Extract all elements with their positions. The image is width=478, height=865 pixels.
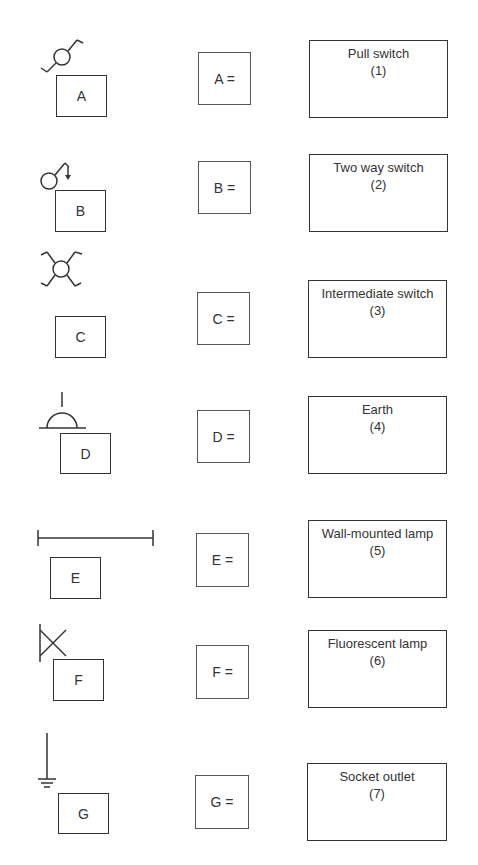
answer-label: A = <box>214 71 235 87</box>
component-number: (2) <box>310 176 447 193</box>
symbol-letter: F <box>74 672 83 688</box>
component-name: Wall-mounted lamp <box>309 525 446 542</box>
fluorescent-lamp-icon <box>38 530 153 546</box>
component-number: (1) <box>310 62 447 79</box>
symbol-a-label-box: A <box>56 75 107 117</box>
wall-mounted-lamp-icon <box>40 624 66 662</box>
component-name: Fluorescent lamp <box>309 635 446 652</box>
symbol-letter: E <box>71 570 80 586</box>
symbol-e-label-box: E <box>50 557 101 599</box>
symbol-g-label-box: G <box>58 793 109 834</box>
component-number: (6) <box>309 652 446 669</box>
component-name: Earth <box>309 401 446 418</box>
answer-label: F = <box>212 664 233 680</box>
symbol-b-label-box: B <box>55 190 106 232</box>
two-way-switch-icon <box>41 163 71 189</box>
symbol-letter: A <box>77 88 86 104</box>
name-box-6: Fluorescent lamp (6) <box>308 630 447 708</box>
earth-icon <box>38 733 56 787</box>
symbol-letter: B <box>76 203 85 219</box>
socket-outlet-icon <box>39 392 86 428</box>
name-box-4: Earth (4) <box>308 396 447 474</box>
answer-box-a[interactable]: A = <box>198 52 251 105</box>
answer-label: G = <box>211 794 234 810</box>
answer-box-d[interactable]: D = <box>197 410 250 463</box>
symbol-d-label-box: D <box>60 433 111 474</box>
component-number: (7) <box>308 785 446 802</box>
component-name: Socket outlet <box>308 768 446 785</box>
answer-label: B = <box>214 180 235 196</box>
component-number: (4) <box>309 418 446 435</box>
symbol-letter: G <box>78 806 89 822</box>
answer-box-c[interactable]: C = <box>197 292 250 345</box>
symbol-c-label-box: C <box>55 316 106 358</box>
component-number: (3) <box>309 302 446 319</box>
answer-box-e[interactable]: E = <box>196 533 249 587</box>
intermediate-switch-icon <box>41 252 82 286</box>
pull-switch-icon <box>41 40 83 72</box>
symbol-f-label-box: F <box>53 659 104 701</box>
answer-box-b[interactable]: B = <box>198 161 251 214</box>
name-box-2: Two way switch (2) <box>309 154 448 232</box>
name-box-7: Socket outlet (7) <box>307 763 447 841</box>
answer-box-g[interactable]: G = <box>195 775 249 829</box>
symbol-letter: D <box>80 446 90 462</box>
component-name: Pull switch <box>310 45 447 62</box>
name-box-1: Pull switch (1) <box>309 40 448 118</box>
component-name: Intermediate switch <box>309 285 446 302</box>
answer-label: C = <box>212 311 234 327</box>
name-box-3: Intermediate switch (3) <box>308 280 447 358</box>
component-number: (5) <box>309 542 446 559</box>
symbol-letter: C <box>75 329 85 345</box>
component-name: Two way switch <box>310 159 447 176</box>
name-box-5: Wall-mounted lamp (5) <box>308 520 447 598</box>
answer-box-f[interactable]: F = <box>196 645 249 699</box>
answer-label: D = <box>212 429 234 445</box>
answer-label: E = <box>212 552 233 568</box>
